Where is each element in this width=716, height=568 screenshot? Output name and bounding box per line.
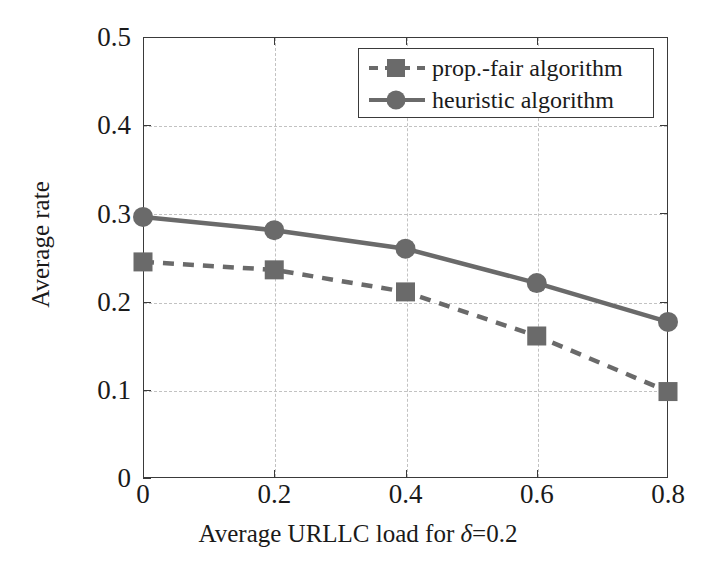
legend-label-heuristic: heuristic algorithm (427, 88, 614, 112)
legend-item-prop-fair: prop.-fair algorithm (367, 52, 645, 84)
series-heuristic (133, 207, 678, 332)
x-axis-label-prefix: Average URLLC load for (199, 520, 461, 547)
y-axis-label: Average rate (28, 95, 53, 395)
x-axis-label-suffix: =0.2 (472, 520, 517, 547)
series-line (143, 217, 668, 322)
data-point-circle (658, 312, 678, 332)
legend-marker-square-dashed-icon (367, 55, 427, 81)
y-tick-label-3: 0.3 (0, 201, 131, 228)
chart-figure: 0 0.1 0.2 0.3 0.4 0.5 0 0.2 0.4 0.6 0.8 … (0, 0, 716, 568)
x-tick-label-3: 0.6 (477, 481, 597, 508)
legend-item-heuristic: heuristic algorithm (367, 84, 645, 116)
data-point-circle (264, 220, 284, 240)
y-tick-label-2: 0.2 (0, 289, 131, 316)
x-tick-label-1: 0.2 (214, 481, 334, 508)
series-line (143, 262, 668, 392)
x-axis-label: Average URLLC load for δ=0.2 (0, 521, 716, 546)
data-point-circle (396, 239, 416, 259)
x-axis-label-delta: δ (460, 520, 472, 547)
x-tick-label-0: 0 (83, 481, 203, 508)
y-tick-label-4: 0.4 (0, 112, 131, 139)
data-point-square (134, 252, 153, 271)
legend-marker-circle-solid-icon (367, 87, 427, 113)
data-point-square (527, 326, 546, 345)
x-tick-label-4: 0.8 (608, 481, 716, 508)
data-point-square (659, 382, 678, 401)
data-point-square (396, 282, 415, 301)
legend: prop.-fair algorithm heuristic algorithm (358, 48, 654, 118)
data-point-square (265, 260, 284, 279)
data-point-circle (527, 273, 547, 293)
legend-label-prop-fair: prop.-fair algorithm (427, 56, 623, 80)
y-tick-label-5: 0.5 (0, 24, 131, 51)
y-tick-label-1: 0.1 (0, 377, 131, 404)
series-prop-fair (134, 252, 678, 401)
data-point-circle (133, 207, 153, 227)
x-tick-label-2: 0.4 (346, 481, 466, 508)
